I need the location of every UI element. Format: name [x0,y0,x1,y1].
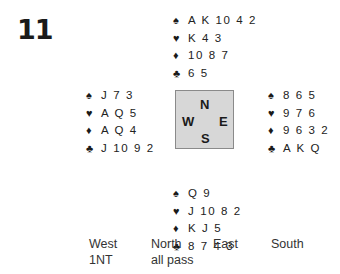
west-spades: ♠J 7 3 [86,87,155,105]
south-diamonds: ♦K J 5 [173,220,242,238]
west-diamonds: ♦A Q 4 [86,122,155,140]
west-hearts: ♥A Q 5 [86,105,155,123]
auction-bid [213,252,275,268]
deal-number: 11 [17,14,53,45]
auction-header-east: East [213,236,271,252]
compass-box: N W E S [175,90,234,149]
north-spades: ♠A K 10 4 2 [173,12,257,30]
auction-header-south: South [271,236,333,252]
spade-icon: ♠ [173,12,188,30]
auction-bid: 1NT [89,252,151,268]
north-clubs: ♣6 5 [173,65,257,83]
diamond-icon: ♦ [173,47,188,65]
spade-icon: ♠ [86,87,101,105]
south-spades: ♠Q 9 [173,185,242,203]
auction-header-north: North [151,236,213,252]
compass-north: N [200,97,209,112]
north-diamonds: ♦10 8 7 [173,47,257,65]
heart-icon: ♥ [173,30,188,48]
club-icon: ♣ [173,65,188,83]
south-hearts: ♥J 10 8 2 [173,203,242,221]
auction-row: 1NT all pass [89,252,337,268]
diamond-icon: ♦ [173,220,188,238]
west-hand: ♠J 7 3 ♥A Q 5 ♦A Q 4 ♣J 10 9 2 [86,87,155,157]
east-clubs: ♣A K Q [268,140,329,158]
east-spades: ♠8 6 5 [268,87,329,105]
club-icon: ♣ [86,140,101,158]
west-clubs: ♣J 10 9 2 [86,140,155,158]
auction-bid: all pass [151,252,213,268]
auction-header-west: West [89,236,151,252]
club-icon: ♣ [268,140,283,158]
compass-south: S [201,131,210,146]
north-hearts: ♥K 4 3 [173,30,257,48]
heart-icon: ♥ [86,105,101,123]
spade-icon: ♠ [268,87,283,105]
auction-table: West North East South 1NT all pass [89,236,337,268]
east-hand: ♠8 6 5 ♥9 7 6 ♦9 6 3 2 ♣A K Q [268,87,329,157]
heart-icon: ♥ [268,105,283,123]
auction-header: West North East South [89,236,337,252]
north-hand: ♠A K 10 4 2 ♥K 4 3 ♦10 8 7 ♣6 5 [173,12,257,82]
compass-east: E [219,114,228,129]
heart-icon: ♥ [173,203,188,221]
east-diamonds: ♦9 6 3 2 [268,122,329,140]
compass-west: W [182,114,194,129]
diamond-icon: ♦ [268,122,283,140]
east-hearts: ♥9 7 6 [268,105,329,123]
diamond-icon: ♦ [86,122,101,140]
spade-icon: ♠ [173,185,188,203]
auction-bid [275,252,337,268]
